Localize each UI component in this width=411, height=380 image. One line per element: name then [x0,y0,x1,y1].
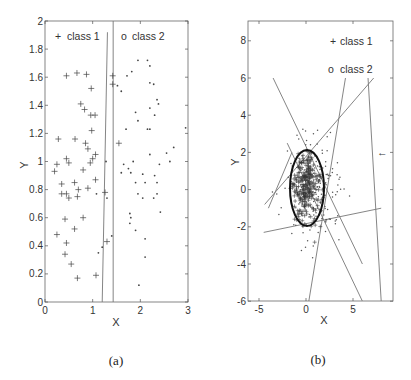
y-tick-label: -6 [237,296,246,307]
class2-point [284,188,286,190]
class2-point [318,182,320,184]
class1-point [54,161,60,167]
class2-point [312,182,314,184]
class2-point [300,209,302,211]
class2-point [335,194,337,196]
class2-point [319,180,321,182]
y-tick-label: 1 [37,156,43,167]
class2-point [185,127,187,129]
class2-point [296,134,298,136]
panel-b-arrow-marker: ← [377,146,388,158]
class2-point [307,240,309,242]
panel-a-data-points [52,59,187,286]
class2-point [301,204,303,206]
panel-a-decision-boundaries [102,21,113,302]
class2-point [304,193,306,195]
class2-point [129,213,131,215]
boundary-line [264,208,382,232]
class2-point [294,192,296,194]
class2-point [156,182,158,184]
y-tick-label: 6 [240,73,246,84]
class2-point [144,182,146,184]
class2-point [337,162,339,164]
class2-point [298,186,300,188]
boundary-line [102,32,107,302]
class1-point [72,226,78,232]
x-tick-label: -5 [255,304,264,315]
class2-point [314,183,316,185]
class2-point [312,168,314,170]
class2-point [309,181,311,183]
panel-a-x-ticks: 0123 [42,21,191,316]
class2-point [307,165,309,167]
class2-point [316,178,318,180]
class2-point [296,182,298,184]
panel-b-data-points [272,129,351,259]
y-tick-label: 0.6 [29,212,43,223]
class2-point [287,150,289,152]
class2-point [310,205,312,207]
class2-point [293,224,295,226]
class2-point [125,128,127,130]
class2-point [321,177,323,179]
class2-point [320,183,322,185]
class1-point [62,251,68,257]
class2-point [311,193,313,195]
class2-point [325,184,327,186]
legend-label-class2: class 2 [132,30,165,42]
class2-point [305,247,307,249]
class2-point [335,220,337,222]
class2-point [317,165,319,167]
class2-point [313,133,315,135]
panel-b-caption: (b) [310,352,325,367]
class2-point [312,173,314,175]
class1-point [72,180,78,186]
class2-point [315,192,317,194]
y-tick-label: 2 [37,16,43,27]
legend-marker-class1: + [330,35,336,47]
class2-point [315,194,317,196]
class2-point [338,178,340,180]
x-tick-label: 5 [350,304,356,315]
class2-point [147,59,149,61]
class2-point [307,194,309,196]
class2-point [291,233,293,235]
class2-point [315,208,317,210]
class2-point [304,169,306,171]
class1-point [55,136,61,142]
class2-point [313,201,315,203]
class2-point [156,193,158,195]
class2-point [130,217,132,219]
panel-b-legend: + class 1 o class 2 [328,35,373,75]
class2-point [315,212,317,214]
class1-point [104,239,110,245]
class1-point [93,151,99,157]
class1-point [74,194,80,200]
class2-point [307,189,309,191]
class2-point [317,198,319,200]
class2-point [307,205,309,207]
class2-point [316,189,318,191]
y-tick-label: 2 [240,147,246,158]
class2-point [304,189,306,191]
class2-point [304,174,306,176]
class2-point [166,152,168,154]
y-tick-label: 0 [240,184,246,195]
class1-point [63,240,69,246]
class2-point [321,193,323,195]
class2-point [138,284,140,286]
class2-point [132,161,134,163]
class1-point [80,167,86,173]
class2-point [332,196,334,198]
y-tick-label: 1.8 [29,44,43,55]
class2-point [169,161,171,163]
class2-point [276,193,278,195]
class2-point [106,197,108,199]
class1-point [92,112,98,118]
class1-point [305,212,309,216]
y-tick-label: 0.2 [29,268,43,279]
class2-point [302,157,304,159]
class2-point [120,172,122,174]
class2-point [304,179,306,181]
class2-point [291,186,293,188]
